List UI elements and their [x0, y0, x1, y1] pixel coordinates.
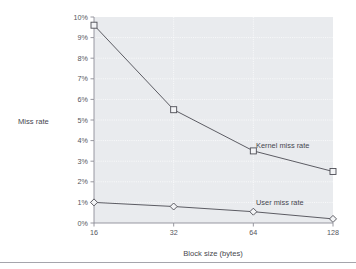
y-tick-label: 9%	[78, 33, 89, 42]
y-tick-label: 10%	[74, 13, 89, 22]
y-axis-title: Miss rate	[18, 117, 49, 126]
y-tick-label: 7%	[78, 74, 89, 83]
y-axis-tick-labels: 0% 1% 2% 3% 4% 5% 6% 7% 8% 9% 10%	[74, 13, 89, 228]
kernel-series-label: Kernel miss rate	[256, 141, 309, 150]
x-axis-title: Block size (bytes)	[183, 249, 243, 258]
y-tick-label: 2%	[78, 177, 89, 186]
x-axis-tick-labels: 16 32 64 128	[90, 228, 339, 237]
y-tick-label: 3%	[78, 157, 89, 166]
y-tick-label: 1%	[78, 198, 89, 207]
y-tick-label: 0%	[78, 219, 89, 228]
x-tick-label: 128	[327, 228, 339, 237]
y-axis-ticks	[91, 17, 95, 223]
user-series-label: User miss rate	[256, 198, 304, 207]
y-tick-label: 5%	[78, 116, 89, 125]
kernel-data-point-marker	[171, 107, 177, 113]
y-tick-label: 4%	[78, 136, 89, 145]
y-tick-label: 6%	[78, 95, 89, 104]
x-axis-ticks	[94, 223, 333, 227]
miss-rate-line-chart: 0% 1% 2% 3% 4% 5% 6% 7% 8% 9% 10% 16 32 …	[0, 0, 356, 269]
x-tick-label: 32	[170, 228, 178, 237]
kernel-data-point-marker	[91, 22, 97, 28]
chart-figure: 0% 1% 2% 3% 4% 5% 6% 7% 8% 9% 10% 16 32 …	[0, 0, 356, 269]
y-tick-label: 8%	[78, 54, 89, 63]
x-tick-label: 64	[249, 228, 257, 237]
kernel-data-point-marker	[330, 169, 336, 175]
x-tick-label: 16	[90, 228, 98, 237]
